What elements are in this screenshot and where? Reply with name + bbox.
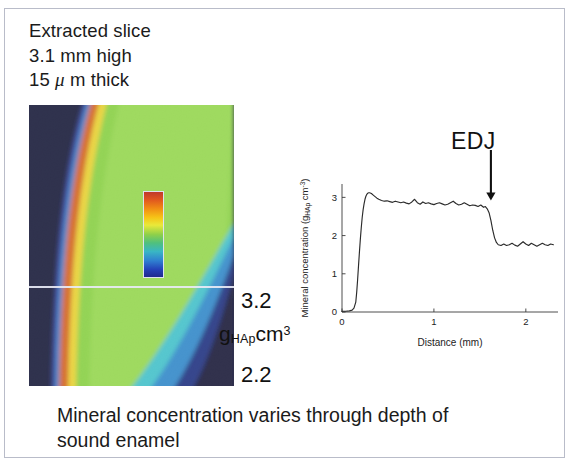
y-tick-label: 0 bbox=[332, 306, 337, 317]
tomogram-canvas bbox=[29, 105, 234, 386]
tomogram-noise-overlay bbox=[29, 105, 234, 386]
caption-line-2: sound enamel bbox=[57, 428, 527, 453]
profile-line bbox=[342, 193, 553, 311]
x-axis-title: Distance (mm) bbox=[417, 337, 482, 348]
edj-arrow-head bbox=[486, 192, 495, 200]
colorbar-unit-sup: 3 bbox=[284, 324, 291, 338]
header-text-block: Extracted slice 3.1 mm high 15 μ m thick bbox=[29, 19, 151, 93]
chart-series-group bbox=[342, 193, 553, 311]
y-tick-label: 1 bbox=[332, 268, 337, 279]
profile-scanline bbox=[29, 286, 234, 288]
y-tick-label: 2 bbox=[332, 230, 337, 241]
header-line-3-prefix: 15 bbox=[29, 69, 55, 90]
colorbar-unit-g: g bbox=[219, 322, 231, 345]
chart-canvas: 0120123Distance (mm)Mineral concentratio… bbox=[296, 126, 564, 358]
colorbar-swatch bbox=[143, 191, 164, 278]
x-tick-label: 2 bbox=[523, 316, 528, 327]
colorbar-unit-cm: cm bbox=[256, 322, 284, 345]
header-line-1: Extracted slice bbox=[29, 19, 151, 44]
y-tick-label: 3 bbox=[332, 192, 337, 203]
edj-annotation-label: EDJ bbox=[451, 128, 496, 155]
enamel-slice-tomogram bbox=[29, 105, 234, 386]
chart-annotations bbox=[486, 150, 495, 200]
x-tick-label: 1 bbox=[431, 316, 436, 327]
colorbar-unit-label: gHApcm3 bbox=[219, 322, 291, 346]
header-line-3-suffix: m thick bbox=[65, 69, 130, 90]
caption-line-1: Mineral concentration varies through dep… bbox=[57, 403, 527, 428]
colorbar-min-label: 2.2 bbox=[241, 362, 272, 388]
header-line-3: 15 μ m thick bbox=[29, 68, 151, 93]
mineral-profile-chart: 0120123Distance (mm)Mineral concentratio… bbox=[296, 126, 564, 358]
mu-symbol: μ bbox=[55, 69, 65, 90]
colorbar-unit-sub: HAp bbox=[231, 332, 256, 346]
chart-axes: 0120123Distance (mm)Mineral concentratio… bbox=[299, 178, 558, 348]
slide-root: Extracted slice 3.1 mm high 15 μ m thick bbox=[0, 0, 575, 467]
colorbar-max-label: 3.2 bbox=[241, 288, 272, 314]
slide-caption: Mineral concentration varies through dep… bbox=[57, 403, 527, 453]
y-axis-title: Mineral concentration (gHAp cm-3) bbox=[299, 178, 313, 317]
x-tick-label: 0 bbox=[339, 316, 344, 327]
header-line-2: 3.1 mm high bbox=[29, 44, 151, 69]
